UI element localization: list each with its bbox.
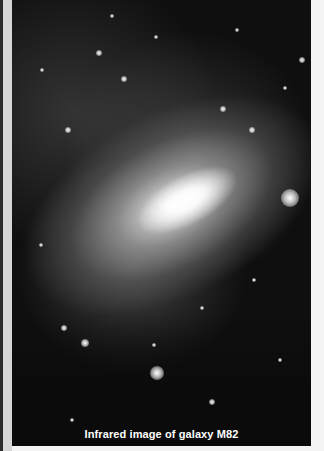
- star: [209, 399, 215, 405]
- star: [154, 35, 158, 39]
- star: [252, 278, 256, 282]
- star: [110, 14, 114, 18]
- star: [65, 127, 71, 133]
- star: [70, 418, 74, 422]
- star: [39, 243, 43, 247]
- star: [200, 306, 204, 310]
- star: [220, 106, 226, 112]
- star: [150, 366, 164, 380]
- star: [96, 50, 102, 56]
- star: [249, 127, 255, 133]
- star: [283, 86, 287, 90]
- star: [152, 343, 156, 347]
- star: [121, 76, 127, 82]
- star: [61, 325, 67, 331]
- star: [299, 57, 305, 63]
- star: [81, 339, 89, 347]
- galaxy-photo: Infrared image of galaxy M82: [12, 0, 311, 446]
- star: [278, 358, 282, 362]
- star: [235, 28, 239, 32]
- left-edge-light-strip: [3, 0, 12, 451]
- star: [281, 189, 299, 207]
- dark-sky-gradient: [12, 0, 311, 446]
- image-caption: Infrared image of galaxy M82: [12, 428, 311, 440]
- star: [40, 68, 44, 72]
